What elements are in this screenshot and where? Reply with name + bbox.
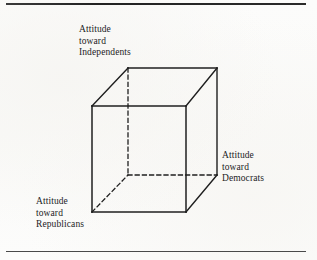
axis-label-democrats-line-2: toward: [222, 162, 264, 174]
axis-label-republicans-line-2: toward: [36, 208, 84, 220]
cube-edge-connector-top-right: [186, 68, 217, 106]
axis-label-democrats-line-1: Attitude: [222, 150, 264, 162]
figure-page: Attitude toward Independents Attitude to…: [0, 0, 317, 260]
cube-edge-connector-top-left: [92, 68, 128, 106]
axis-label-democrats: Attitude toward Democrats: [222, 150, 264, 185]
cube-edge-connector-bottom-right: [186, 175, 217, 212]
axis-label-independents-line-2: toward: [79, 36, 131, 48]
axis-label-republicans: Attitude toward Republicans: [36, 196, 84, 231]
cube-edge-connector-bottom-left-hidden: [92, 175, 128, 212]
axis-label-independents-line-1: Attitude: [79, 24, 131, 36]
axis-label-democrats-line-3: Democrats: [222, 173, 264, 185]
axis-label-independents: Attitude toward Independents: [79, 24, 131, 59]
axis-label-republicans-line-1: Attitude: [36, 196, 84, 208]
axis-label-republicans-line-3: Republicans: [36, 219, 84, 231]
axis-label-independents-line-3: Independents: [79, 47, 131, 59]
